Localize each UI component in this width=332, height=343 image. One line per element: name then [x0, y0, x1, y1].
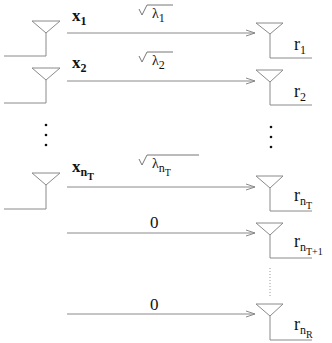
svg-text:λ2: λ2 — [152, 53, 165, 72]
sqrt-gain-label: λ1 — [139, 5, 173, 25]
sqrt-gain-label: λ2 — [139, 52, 173, 72]
channel-row-1: x1 λ1 r1 — [4, 5, 312, 58]
transmit-antenna-icon — [4, 173, 60, 209]
mimo-parallel-channels-diagram: x1 λ1 r1 x2 λ2 r2 — [0, 0, 332, 343]
receive-symbol-label: rnT+1 — [294, 231, 323, 257]
transmit-symbol-label: x1 — [72, 6, 87, 28]
transmit-symbol-label: x2 — [72, 53, 87, 75]
channel-row-nT-plus-1: 0 rnT+1 — [67, 213, 323, 258]
receive-symbol-label: r1 — [294, 34, 306, 57]
svg-text:λnT: λnT — [152, 156, 171, 178]
transmit-ellipsis-icon — [45, 124, 48, 147]
transmit-symbol-label: xnT — [72, 157, 94, 182]
channel-row-nR: 0 rnR — [67, 295, 313, 340]
receive-symbol-label: rnR — [294, 314, 313, 340]
receive-ellipsis-icon — [270, 126, 273, 149]
receive-symbol-label: rnT — [294, 185, 312, 211]
transmit-antenna-icon — [4, 68, 60, 103]
sqrt-gain-label: λnT — [139, 155, 199, 178]
svg-text:λ1: λ1 — [152, 6, 165, 25]
channel-row-nT: xnT λnT rnT — [4, 155, 312, 211]
transmit-antenna-icon — [4, 21, 60, 56]
zero-gain-label: 0 — [150, 295, 159, 314]
channel-row-2: x2 λ2 r2 — [4, 52, 312, 105]
receive-symbol-label: r2 — [294, 81, 306, 104]
zero-gain-label: 0 — [150, 213, 159, 232]
